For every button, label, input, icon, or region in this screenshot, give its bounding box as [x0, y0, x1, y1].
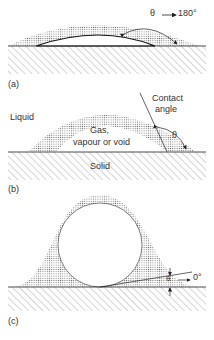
panel-label-c: (c) — [8, 316, 19, 326]
solid-substrate-c — [8, 287, 206, 311]
liquid-label: Liquid — [10, 113, 34, 123]
contact-label-line2: angle — [155, 105, 177, 115]
theta-label-c: θ — [166, 275, 170, 284]
solid-substrate-a — [8, 46, 206, 74]
gas-sphere-c — [58, 203, 142, 287]
panel-label-b: (b) — [8, 184, 19, 194]
panel-label-a: (a) — [8, 79, 19, 89]
solid-label: Solid — [90, 162, 110, 172]
angle-value-c: 0° — [193, 273, 202, 283]
panel-c — [8, 195, 206, 311]
angle-value-a: 180° — [178, 9, 197, 19]
gas-label-line1: Gas, — [90, 126, 109, 136]
contact-label-line1: Contact — [152, 94, 183, 104]
theta-label-a: θ — [150, 9, 155, 19]
gas-label-line2: vapour or void — [73, 138, 130, 148]
panel-a — [8, 15, 206, 74]
theta-label-b: θ — [172, 131, 177, 141]
